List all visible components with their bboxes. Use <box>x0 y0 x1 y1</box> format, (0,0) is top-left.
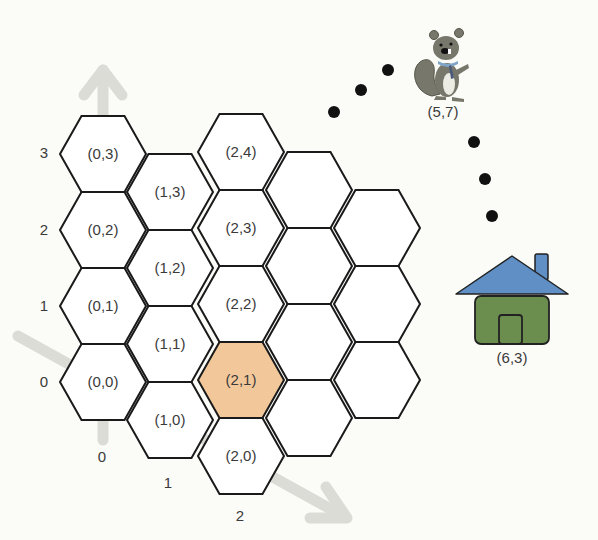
path-dot <box>328 106 340 118</box>
hex-cell-label: (2,1) <box>226 371 257 388</box>
hex-cell-label: (0,3) <box>88 145 119 162</box>
path-dot <box>355 84 367 96</box>
hex-cell-label: (2,3) <box>226 219 257 236</box>
house-icon <box>456 254 568 344</box>
house-coordinate-label: (6,3) <box>497 349 528 366</box>
squirrel-coordinate-label: (5,7) <box>428 103 459 120</box>
hex-cell-label: (2,4) <box>226 143 257 160</box>
axis-label-v3: 3 <box>40 144 48 161</box>
hex-cell-label: (0,0) <box>88 373 119 390</box>
hex-cell <box>266 304 352 380</box>
hex-cell-label: (1,3) <box>155 183 186 200</box>
hex-cell <box>266 228 352 304</box>
squirrel-icon <box>415 29 469 103</box>
hex-cell-label: (0,1) <box>88 297 119 314</box>
axis-label-v2: 2 <box>40 221 48 238</box>
axis-label-v0: 0 <box>40 373 48 390</box>
hex-cell <box>266 380 352 456</box>
axis-label-d2: 2 <box>236 507 244 524</box>
hex-cell-label: (0,2) <box>88 221 119 238</box>
path-dot <box>479 173 491 185</box>
axis-label-d1: 1 <box>164 474 172 491</box>
hex-cell-label: (1,1) <box>155 335 186 352</box>
hex-cell-label: (1,0) <box>155 411 186 428</box>
path-dot <box>486 210 498 222</box>
axis-label-v1: 1 <box>40 297 48 314</box>
hex-cell <box>334 342 420 418</box>
path-dot <box>382 64 394 76</box>
hex-cell <box>266 152 352 228</box>
hex-cell <box>334 266 420 342</box>
hex-cell-label: (2,0) <box>226 447 257 464</box>
axis-label-d0: 0 <box>98 448 106 465</box>
hex-grid-diagram: (0,0)(0,1)(0,2)(0,3)(1,0)(1,1)(1,2)(1,3)… <box>0 0 598 540</box>
hex-cell <box>334 190 420 266</box>
hex-cell-label: (2,2) <box>226 295 257 312</box>
path-dot <box>468 136 480 148</box>
hex-cell-label: (1,2) <box>155 259 186 276</box>
